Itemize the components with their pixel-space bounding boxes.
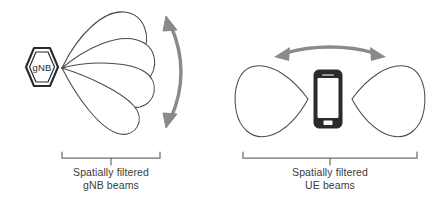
smartphone-home-button xyxy=(324,121,333,126)
gnb-sweep-arrow-head-top xyxy=(163,16,177,31)
gnb-sweep-arrow xyxy=(163,16,181,128)
gnb-side-group: gNB xyxy=(26,12,181,165)
ue-beam-left xyxy=(235,66,308,137)
gnb-node-label: gNB xyxy=(32,62,51,73)
ue-sweep-arrow-head-left xyxy=(274,47,290,61)
ue-bracket xyxy=(243,152,417,165)
ue-beam-right xyxy=(352,66,425,137)
gnb-beam-lobes xyxy=(62,12,155,134)
smartphone-earpiece xyxy=(322,74,334,76)
ue-smartphone xyxy=(314,70,342,128)
ue-bracket-line xyxy=(243,152,417,158)
smartphone-screen xyxy=(318,78,339,118)
gnb-bracket-line xyxy=(62,152,160,158)
ue-caption-line-1: Spatially filtered xyxy=(255,166,405,179)
gnb-caption: Spatially filtered gNB beams xyxy=(46,166,176,191)
beamforming-diagram: gNB xyxy=(0,0,433,205)
ue-side-group xyxy=(235,47,425,165)
gnb-sweep-arrow-head-bottom xyxy=(163,113,177,128)
gnb-node: gNB xyxy=(26,48,58,86)
ue-sweep-arrow xyxy=(274,47,386,61)
ue-sweep-arrow-head-right xyxy=(370,47,386,61)
ue-sweep-arrow-shaft xyxy=(286,47,374,53)
gnb-bracket xyxy=(62,152,160,165)
gnb-sweep-arrow-shaft xyxy=(171,26,181,118)
gnb-caption-line-2: gNB beams xyxy=(46,179,176,192)
ue-caption-line-2: UE beams xyxy=(255,179,405,192)
gnb-caption-line-1: Spatially filtered xyxy=(46,166,176,179)
ue-caption: Spatially filtered UE beams xyxy=(255,166,405,191)
